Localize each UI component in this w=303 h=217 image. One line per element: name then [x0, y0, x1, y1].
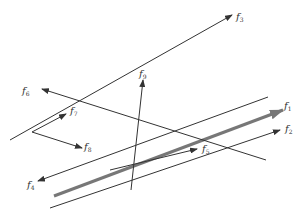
label-subscript: 9: [143, 73, 147, 80]
label-f8: f8: [84, 142, 92, 153]
vector-lines: [0, 0, 303, 217]
label-subscript: 7: [74, 110, 78, 117]
label-f9: f9: [139, 69, 147, 80]
vector-f5: [110, 149, 197, 170]
vector-f3: [10, 15, 232, 140]
vector-f6: [42, 89, 266, 160]
label-f1: f1: [284, 101, 292, 112]
vector-f7: [32, 114, 66, 132]
label-subscript: 4: [31, 184, 35, 191]
label-subscript: 2: [289, 128, 293, 135]
vector-diagram: f1f2f3f4f5f6f7f8f9: [0, 0, 303, 217]
label-subscript: 8: [88, 146, 92, 153]
vector-f1: [54, 110, 283, 196]
label-f4: f4: [27, 180, 35, 191]
vector-f8: [32, 132, 82, 148]
label-subscript: 6: [26, 90, 30, 97]
label-f6: f6: [22, 86, 30, 97]
label-f3: f3: [236, 12, 244, 23]
label-f7: f7: [70, 106, 78, 117]
vector-f9: [131, 80, 143, 190]
label-f5: f5: [202, 144, 210, 155]
label-subscript: 5: [206, 148, 210, 155]
label-subscript: 3: [240, 16, 244, 23]
label-subscript: 1: [288, 105, 292, 112]
label-f2: f2: [285, 124, 293, 135]
